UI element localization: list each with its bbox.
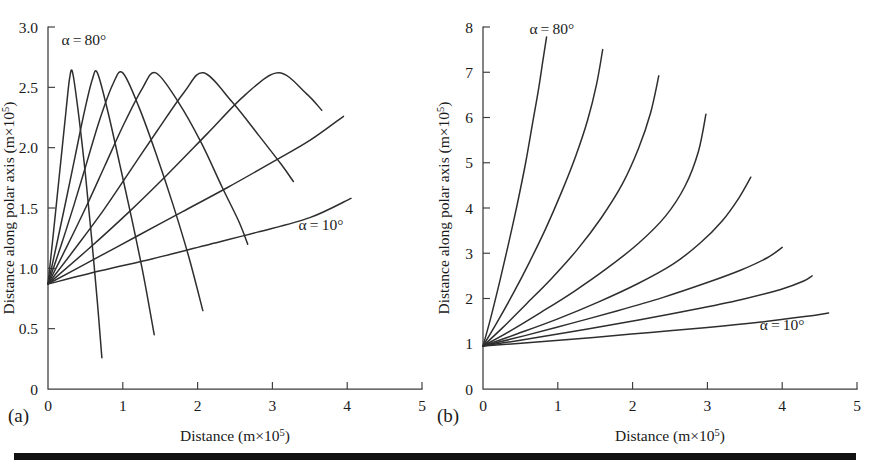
chart-panel-b: 012345678012345Distance (m×105)Distance …: [435, 0, 870, 440]
y-axis-title-base: Distance along polar axis (m×10: [0, 112, 18, 315]
axis-spines: [48, 27, 422, 389]
y-axis-tick-label: 3: [465, 245, 473, 262]
y-axis-tick-label: 6: [465, 109, 473, 126]
alpha-annotation-label: α = 80°: [529, 20, 574, 37]
x-axis-title-tail: ): [720, 427, 725, 445]
x-axis-tick-label: 4: [343, 397, 351, 414]
x-axis-tick-label: 3: [704, 397, 712, 414]
trajectory-curve: [483, 37, 547, 346]
chart-panel-a: 00.51.01.52.02.53.0012345Distance (m×105…: [0, 0, 435, 440]
trajectory-curve: [483, 114, 706, 346]
alpha-annotation-label: α = 80°: [61, 31, 106, 48]
y-axis-title-base: Distance along polar axis (m×10: [435, 112, 453, 315]
y-axis-tick-label: 0: [465, 381, 473, 398]
alpha-annotation-label: α = 10°: [760, 316, 805, 333]
trajectory-curve: [483, 276, 812, 346]
y-axis-title-tail: ): [435, 102, 453, 107]
trajectory-curve: [483, 50, 603, 346]
x-axis-tick-label: 2: [629, 397, 637, 414]
x-axis-tick-label: 0: [44, 397, 52, 414]
plot-svg-a: 00.51.01.52.02.53.0012345Distance (m×105…: [0, 0, 435, 440]
y-axis-tick-label: 7: [465, 64, 473, 81]
x-axis-tick-label: 1: [554, 397, 562, 414]
figure-container: 00.51.01.52.02.53.0012345Distance (m×105…: [0, 0, 870, 472]
y-axis-title-tail: ): [0, 102, 18, 107]
y-axis-title: Distance along polar axis (m×105): [0, 102, 18, 315]
x-axis-title-tail: ): [285, 427, 290, 445]
y-axis-tick-label: 1: [465, 335, 473, 352]
panel-label-a: (a): [8, 405, 29, 427]
plot-svg-b: 012345678012345Distance (m×105)Distance …: [435, 0, 870, 440]
y-axis-tick-label: 1.5: [19, 200, 39, 217]
x-axis-title: Distance (m×105): [615, 427, 725, 445]
x-axis-tick-label: 4: [778, 397, 786, 414]
y-axis-tick-label: 3.0: [19, 19, 39, 36]
y-axis-tick-label: 2: [465, 290, 473, 307]
y-axis-title: Distance along polar axis (m×105): [435, 102, 453, 315]
y-axis-tick-label: 0.5: [19, 320, 39, 337]
y-axis-tick-label: 5: [465, 154, 473, 171]
x-axis-tick-label: 3: [269, 397, 277, 414]
alpha-annotation-label: α = 10°: [299, 216, 344, 233]
x-axis-title-base: Distance (m×10: [180, 427, 280, 445]
y-axis-tick-label: 8: [465, 19, 473, 36]
x-axis-tick-label: 2: [194, 397, 202, 414]
trajectory-curve: [483, 247, 782, 346]
y-axis-tick-label: 2.0: [19, 139, 39, 156]
y-axis-tick-label: 2.5: [19, 79, 39, 96]
x-axis-title: Distance (m×105): [180, 427, 290, 445]
x-axis-tick-label: 1: [119, 397, 127, 414]
y-axis-tick-label: 0: [30, 381, 38, 398]
panel-label-b: (b): [437, 405, 459, 427]
x-axis-tick-label: 0: [479, 397, 487, 414]
trajectory-curve: [483, 76, 659, 346]
trajectory-curve: [48, 70, 102, 358]
bottom-rule-divider: [14, 453, 856, 460]
trajectory-curve: [48, 73, 322, 284]
x-axis-tick-label: 5: [853, 397, 861, 414]
x-axis-title-base: Distance (m×10: [615, 427, 715, 445]
x-axis-tick-label: 5: [418, 397, 426, 414]
y-axis-tick-label: 4: [465, 200, 473, 217]
trajectory-curve: [48, 198, 351, 284]
y-axis-tick-label: 1.0: [19, 260, 39, 277]
